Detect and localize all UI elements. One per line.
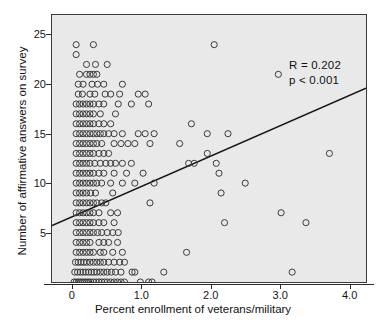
data-point xyxy=(147,200,153,206)
data-point xyxy=(108,180,114,186)
data-point xyxy=(161,269,167,275)
data-point xyxy=(218,190,224,196)
data-points-layer xyxy=(52,15,366,282)
data-point xyxy=(119,180,125,186)
x-tick-label: 1.0 xyxy=(121,289,161,301)
data-point xyxy=(92,61,98,67)
data-point xyxy=(147,140,153,146)
y-tick-mark xyxy=(46,134,51,135)
data-point xyxy=(111,220,117,226)
pvalue-label: p < 0.001 xyxy=(289,73,341,88)
y-tick-mark xyxy=(46,34,51,35)
x-tick-label: 4.0 xyxy=(330,289,370,301)
data-point xyxy=(177,140,183,146)
data-point xyxy=(188,121,194,127)
data-point xyxy=(114,210,120,216)
data-point xyxy=(128,160,134,166)
data-point xyxy=(110,249,116,255)
data-point xyxy=(108,210,114,216)
data-point xyxy=(242,180,248,186)
data-point xyxy=(111,170,117,176)
data-point xyxy=(97,111,103,117)
data-point xyxy=(151,131,157,137)
data-point xyxy=(83,61,89,67)
data-point xyxy=(104,61,110,67)
data-point xyxy=(326,150,332,156)
x-tick-label: 2.0 xyxy=(191,289,231,301)
data-point xyxy=(128,101,134,107)
correlation-label: R = 0.202 xyxy=(289,58,341,73)
plot-area xyxy=(51,14,367,283)
data-point xyxy=(117,91,123,97)
x-axis-label: Percent enrollment of veterans/military xyxy=(0,303,386,315)
data-point xyxy=(275,71,281,77)
data-point xyxy=(142,131,148,137)
x-axis-line xyxy=(44,284,374,285)
data-point xyxy=(221,220,227,226)
data-point xyxy=(119,131,125,137)
data-point xyxy=(137,279,143,282)
scatter-plot-figure: 510152025 01.02.03.04.0 Number of affirm… xyxy=(0,0,386,327)
data-point xyxy=(73,51,79,57)
data-point xyxy=(204,150,210,156)
data-point xyxy=(90,42,96,48)
data-point xyxy=(135,131,141,137)
data-point xyxy=(132,180,138,186)
data-point xyxy=(119,160,125,166)
statistics-annotation: R = 0.202 p < 0.001 xyxy=(289,58,341,88)
y-tick-mark xyxy=(46,183,51,184)
y-axis-label: Number of affirmative answers on survey xyxy=(16,11,28,291)
data-point xyxy=(225,131,231,137)
data-point xyxy=(142,91,148,97)
data-point xyxy=(108,121,114,127)
data-point xyxy=(119,81,125,87)
data-point xyxy=(123,170,129,176)
data-point xyxy=(216,170,222,176)
data-point xyxy=(135,91,141,97)
data-point xyxy=(79,91,85,97)
data-point xyxy=(101,81,107,87)
data-point xyxy=(140,170,146,176)
y-tick-mark xyxy=(46,84,51,85)
data-point xyxy=(278,210,284,216)
data-point xyxy=(289,269,295,275)
data-point xyxy=(114,239,120,245)
data-point xyxy=(119,249,125,255)
data-point xyxy=(213,160,219,166)
data-point xyxy=(132,140,138,146)
x-tick-label: 3.0 xyxy=(260,289,300,301)
data-point xyxy=(77,71,83,77)
data-point xyxy=(73,42,79,48)
data-point xyxy=(204,131,210,137)
data-point xyxy=(115,101,121,107)
y-tick-mark xyxy=(46,233,51,234)
data-point xyxy=(183,249,189,255)
data-point xyxy=(303,220,309,226)
data-point xyxy=(211,42,217,48)
data-point xyxy=(146,101,152,107)
data-point xyxy=(125,140,131,146)
data-point xyxy=(112,111,118,117)
data-point xyxy=(118,140,124,146)
data-point xyxy=(110,190,116,196)
data-point xyxy=(111,140,117,146)
x-tick-label: 0 xyxy=(52,289,92,301)
